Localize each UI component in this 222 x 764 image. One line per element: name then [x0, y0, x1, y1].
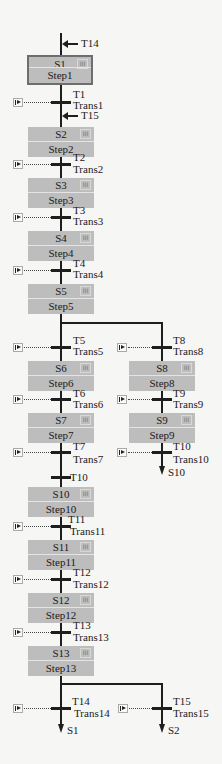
- action-icon[interactable]: III: [80, 489, 91, 499]
- condition-link: [24, 399, 51, 400]
- transition-label: Trans7: [73, 454, 103, 465]
- condition-link: [24, 632, 51, 633]
- step-s7[interactable]: S7 III Step7: [28, 413, 94, 443]
- action-icon[interactable]: III: [80, 286, 91, 296]
- transition-label: Trans5: [73, 346, 103, 357]
- transition-t6[interactable]: [51, 398, 71, 401]
- action-icon[interactable]: III: [181, 363, 192, 373]
- transition-t12[interactable]: [51, 578, 71, 581]
- action-icon[interactable]: III: [80, 363, 91, 373]
- condition-link: [24, 579, 51, 580]
- transition-t13[interactable]: [51, 631, 71, 634]
- transition-t7[interactable]: [51, 451, 71, 454]
- transition-label: Trans9: [173, 399, 203, 410]
- condition-connector-icon[interactable]: [117, 448, 127, 457]
- condition-link: [24, 270, 51, 271]
- transition-label: Trans13: [73, 632, 109, 643]
- transition-t3[interactable]: [51, 216, 71, 219]
- jump-out-arrow-icon: [159, 724, 165, 733]
- transition-name: T14: [72, 696, 90, 707]
- transition-label: Trans14: [74, 708, 110, 719]
- action-icon[interactable]: III: [80, 129, 91, 139]
- main-flow-line-s2-s3: [60, 157, 62, 178]
- condition-connector-icon[interactable]: [13, 575, 23, 584]
- condition-connector-icon[interactable]: [13, 628, 23, 637]
- transition-t9[interactable]: [152, 398, 172, 401]
- main-flow-line-s10-s11: [60, 517, 62, 540]
- main-flow-line-s12-s13: [60, 623, 62, 646]
- transition-t5[interactable]: [51, 346, 71, 349]
- right-branch-line-s9-jump: [161, 443, 163, 468]
- jump-target-label: S1: [67, 725, 79, 736]
- transition-label: Trans1: [73, 100, 103, 111]
- transition-name: T15: [173, 696, 191, 707]
- step-s9[interactable]: S9 III Step9: [129, 413, 195, 443]
- jump-target-label: S10: [168, 467, 185, 478]
- transition-name: T10: [173, 441, 191, 452]
- right-branch-line-s8-s9: [161, 391, 163, 413]
- transition-label: Trans10: [173, 454, 209, 465]
- action-icon[interactable]: III: [181, 415, 192, 425]
- action-icon[interactable]: III: [80, 648, 91, 658]
- right-branch-line-top: [161, 322, 163, 362]
- condition-connector-icon[interactable]: [118, 704, 128, 713]
- action-icon[interactable]: III: [80, 542, 91, 552]
- condition-connector-icon[interactable]: [13, 160, 23, 169]
- action-icon[interactable]: III: [80, 233, 91, 243]
- condition-link: [128, 399, 152, 400]
- condition-connector-icon[interactable]: [13, 98, 23, 107]
- condition-connector-icon[interactable]: [13, 448, 23, 457]
- step-s1[interactable]: S1 III Step1: [27, 55, 93, 85]
- condition-connector-icon[interactable]: [13, 343, 23, 352]
- main-flow-line-s1-s2: [60, 85, 62, 127]
- condition-connector-icon[interactable]: [13, 213, 23, 222]
- jump-in-arrow-icon: [67, 115, 78, 117]
- step-s13[interactable]: S13 III Step13: [28, 646, 94, 676]
- step-s5[interactable]: S5 III Step5: [28, 284, 94, 314]
- condition-connector-icon[interactable]: [117, 343, 127, 352]
- condition-connector-icon[interactable]: [13, 266, 23, 275]
- action-icon[interactable]: III: [80, 180, 91, 190]
- jump-in-label: T14: [81, 38, 99, 49]
- condition-link: [24, 164, 51, 165]
- transition-t2[interactable]: [51, 163, 71, 166]
- main-flow-line-s11-s12: [60, 570, 62, 593]
- jump-in-arrow-icon: [67, 43, 78, 45]
- transition-name: T11: [68, 514, 85, 525]
- transition-t1[interactable]: [51, 101, 71, 104]
- transition-t4[interactable]: [51, 269, 71, 272]
- condition-connector-icon[interactable]: [117, 395, 127, 404]
- step-s8[interactable]: S8 III Step8: [129, 361, 195, 391]
- transition-t15[interactable]: [152, 707, 172, 710]
- jump-in-label: T15: [81, 110, 99, 121]
- transition-name: T13: [73, 620, 91, 631]
- action-icon[interactable]: III: [80, 415, 91, 425]
- main-flow-line-s6-s7: [60, 391, 62, 413]
- transition-t14[interactable]: [51, 707, 71, 710]
- transition-t10-merge[interactable]: [51, 476, 71, 479]
- step-label: Step1: [29, 67, 91, 83]
- condition-link: [128, 347, 152, 348]
- step-label: Step5: [28, 298, 94, 314]
- condition-link: [128, 452, 152, 453]
- jump-target-label: S2: [168, 725, 180, 736]
- transition-t8[interactable]: [152, 346, 172, 349]
- transition-label: Trans6: [73, 399, 103, 410]
- transition-t10[interactable]: [152, 451, 172, 454]
- condition-link: [24, 347, 51, 348]
- transition-label: Trans12: [73, 579, 109, 590]
- transition-t11[interactable]: [51, 525, 71, 528]
- condition-connector-icon[interactable]: [13, 395, 23, 404]
- jump-out-arrow-icon: [58, 724, 64, 733]
- divergence-line-bottom: [60, 683, 163, 685]
- condition-link: [24, 102, 51, 103]
- transition-label: Trans8: [173, 346, 203, 357]
- condition-connector-icon[interactable]: [13, 704, 23, 713]
- action-icon[interactable]: III: [80, 595, 91, 605]
- condition-connector-icon[interactable]: [13, 522, 23, 531]
- condition-link: [24, 452, 51, 453]
- right-branch-line-bottom: [161, 683, 163, 724]
- condition-link: [129, 708, 152, 709]
- transition-name: T10: [70, 472, 88, 483]
- condition-link: [24, 526, 51, 527]
